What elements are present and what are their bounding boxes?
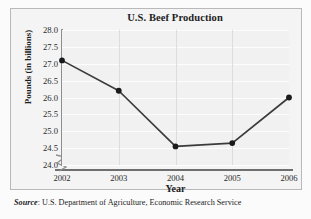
- x-tick-label: 2002: [53, 173, 70, 183]
- horizontal-gridline: [62, 165, 289, 166]
- y-tick-label: 25.5: [24, 110, 58, 119]
- x-tick-label: 2006: [280, 173, 297, 183]
- x-axis-line: [55, 169, 293, 171]
- plot-area: 2002: 27.12003: 26.22004: 24.552005: 24.…: [62, 30, 289, 165]
- y-tick-label: 24.5: [24, 144, 58, 153]
- x-tick-label: 2003: [110, 173, 127, 183]
- data-point-marker: 2004: 24.55: [173, 144, 179, 150]
- chart-title: U.S. Beef Production: [55, 12, 295, 23]
- data-point-marker: 2003: 26.2: [116, 88, 122, 94]
- y-axis-tick-labels: 28.027.527.026.526.025.525.024.524.0: [22, 30, 58, 165]
- y-tick-label: 28.0: [24, 26, 58, 35]
- x-tick-label: 2005: [224, 173, 241, 183]
- y-tick-label: 26.5: [24, 76, 58, 85]
- y-tick-label: 24.0: [24, 161, 58, 170]
- data-point-marker: 2005: 24.65: [229, 140, 235, 146]
- y-tick-label: 27.5: [24, 43, 58, 52]
- chart-screenshot: U.S. Beef Production Pounds (in billions…: [0, 0, 311, 219]
- data-point-marker: 2006: 26: [286, 95, 292, 101]
- y-tick-label: 26.0: [24, 93, 58, 102]
- series-polyline: [62, 60, 289, 146]
- data-series-line: 2002: 27.12003: 26.22004: 24.552005: 24.…: [62, 30, 289, 165]
- source-lead: Source: [14, 198, 38, 207]
- x-tick-label: 2004: [167, 173, 184, 183]
- y-tick-label: 27.0: [24, 59, 58, 68]
- data-point-marker: 2002: 27.1: [59, 57, 65, 63]
- source-text: : U.S. Department of Agriculture, Econom…: [38, 198, 242, 207]
- y-tick-label: 25.0: [24, 127, 58, 136]
- source-note: Source: U.S. Department of Agriculture, …: [14, 198, 241, 207]
- x-axis-label: Year: [62, 183, 289, 194]
